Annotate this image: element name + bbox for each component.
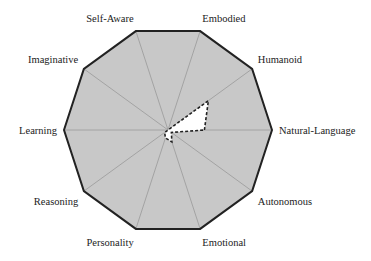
axis-label: Personality (86, 237, 134, 248)
axis-label: Humanoid (258, 54, 303, 65)
axis-label: Autonomous (258, 196, 312, 207)
axis-label: Natural-Language (279, 125, 356, 136)
axis-label: Imaginative (28, 54, 78, 65)
axis-label: Self-Aware (86, 13, 134, 24)
axis-label: Reasoning (34, 196, 79, 207)
axis-label: Learning (19, 125, 58, 136)
axis-label: Embodied (202, 13, 246, 24)
axis-label: Emotional (202, 237, 246, 248)
radar-chart: Natural-LanguageHumanoidEmbodiedSelf-Awa… (0, 0, 371, 261)
